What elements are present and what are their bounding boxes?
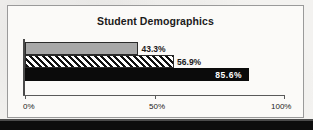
bar-row: 43.3% xyxy=(25,42,287,55)
bar-series-1[interactable]: 43.3% xyxy=(25,42,138,55)
scanned-page-background: Student Demographics 43.3% 56.9% 85.6% xyxy=(0,0,313,130)
chart-frame: Student Demographics 43.3% 56.9% 85.6% xyxy=(7,5,304,118)
chart-title: Student Demographics xyxy=(8,15,303,27)
bar-value-label: 43.3% xyxy=(141,44,165,54)
bar-series-3[interactable]: 85.6% xyxy=(25,68,249,81)
x-tick-mark-50 xyxy=(155,95,156,99)
bar-row: 56.9% xyxy=(25,55,287,68)
x-tick-label-100: 100% xyxy=(271,102,291,111)
x-tick-label-50: 50% xyxy=(149,102,165,111)
plot-area: 43.3% 56.9% 85.6% xyxy=(23,39,288,99)
bar-value-label: 56.9% xyxy=(177,57,201,67)
bar-row: 85.6% xyxy=(25,68,287,81)
x-tick-mark-0 xyxy=(25,95,26,99)
x-axis-line xyxy=(23,95,285,96)
scan-bottom-strip xyxy=(0,121,313,130)
bar-value-label: 85.6% xyxy=(215,70,242,80)
x-tick-mark-100 xyxy=(284,95,285,99)
bar-series-2[interactable]: 56.9% xyxy=(25,55,174,68)
x-tick-label-0: 0% xyxy=(23,102,35,111)
